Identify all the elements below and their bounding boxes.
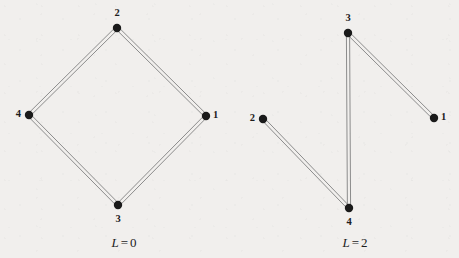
edge-stroke [116,29,205,117]
node-4[interactable] [345,204,353,212]
edge-stroke [346,33,347,208]
edge-stroke [262,120,348,209]
node-group [25,24,210,209]
node-3[interactable] [344,29,352,37]
caption-operator: = [119,235,130,250]
edge-group [262,32,435,209]
node-label-1: 1 [441,112,446,123]
edge-3-4 [346,33,350,208]
edge-stroke [119,117,207,206]
edge-2-1 [116,27,207,117]
edge-stroke [117,115,205,204]
node-label-3: 3 [345,13,350,24]
edge-3-1 [347,32,435,119]
caption-operator: = [350,235,361,250]
edge-3-1 [117,115,207,206]
caption-value: 0 [130,235,137,250]
edge-2-4 [262,118,350,209]
edge-stroke [350,33,351,208]
edge-stroke [30,114,119,204]
edge-stroke [118,27,207,115]
node-label-1: 1 [213,110,218,121]
caption-graph-left: L=0 [111,235,136,251]
node-1[interactable] [202,112,210,120]
edge-stroke [264,118,350,207]
node-4[interactable] [25,111,33,119]
edge-stroke [349,32,435,117]
edge-2-4 [28,27,118,116]
edge-stroke [347,34,433,119]
node-label-3: 3 [115,214,120,225]
node-label-4: 4 [346,217,351,228]
node-label-2: 2 [250,113,255,124]
node-3[interactable] [114,201,122,209]
node-2[interactable] [113,24,121,32]
edge-stroke [28,116,117,206]
edge-4-3 [28,114,119,206]
graph-figure: 1234L=01234L=2 [0,0,459,258]
graph-drawing-canvas [0,0,459,258]
edge-stroke [30,29,118,116]
node-label-2: 2 [114,8,119,19]
edge-stroke [28,27,116,114]
caption-graph-right: L=2 [342,235,367,251]
node-label-4: 4 [16,109,21,120]
node-2[interactable] [259,115,267,123]
node-1[interactable] [430,114,438,122]
edge-group [28,27,207,206]
node-group [259,29,438,212]
caption-value: 2 [361,235,368,250]
